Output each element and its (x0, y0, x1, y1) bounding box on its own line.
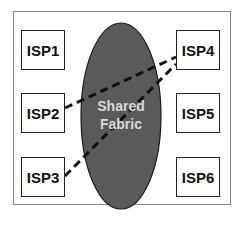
isp4-node: ISP4 (176, 30, 220, 70)
fabric-label-line1: Shared (81, 97, 161, 115)
fabric-label-line2: Fabric (81, 115, 161, 133)
isp6-node: ISP6 (176, 157, 220, 197)
isp2-node: ISP2 (21, 93, 65, 133)
isp5-node: ISP5 (176, 93, 220, 133)
isp1-node: ISP1 (21, 30, 65, 70)
shared-fabric-label: Shared Fabric (81, 97, 161, 133)
isp3-node: ISP3 (21, 157, 65, 197)
